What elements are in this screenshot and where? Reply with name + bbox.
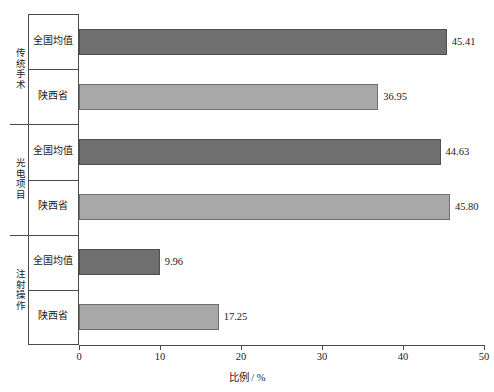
x-axis-title: 比例 / % (0, 369, 494, 384)
x-tick-label: 30 (317, 352, 328, 363)
x-tick (241, 345, 242, 350)
plot-area: 45.4136.9544.6345.809.9617.25 (79, 14, 484, 345)
x-tick-label: 40 (398, 352, 409, 363)
category-label: 陕西省 (28, 91, 77, 101)
bar-value-label: 44.63 (446, 139, 470, 165)
category-label: 陕西省 (28, 201, 77, 211)
group-label-text: 传统手术 (14, 48, 24, 90)
bar-value-label: 17.25 (224, 304, 248, 330)
group-label-text: 光电项目 (14, 158, 24, 200)
x-tick (484, 345, 485, 350)
bar (79, 29, 447, 55)
category-label: 全国均值 (28, 146, 77, 156)
x-tick-label: 20 (236, 352, 247, 363)
bar (79, 139, 441, 165)
category-label: 全国均值 (28, 36, 77, 46)
category-divider (28, 69, 79, 70)
x-axis-line (79, 345, 484, 346)
category-divider (28, 290, 79, 291)
x-tick (160, 345, 161, 350)
bar-value-label: 45.80 (455, 194, 479, 220)
group-divider (10, 124, 79, 125)
bar (79, 84, 378, 110)
group-label-text: 注射操作 (14, 269, 24, 311)
x-tick (79, 345, 80, 350)
group-label-1: 传统手术 (10, 14, 29, 124)
bar-value-label: 9.96 (165, 249, 183, 275)
bar (79, 304, 219, 330)
group-label-2: 光电项目 (10, 124, 29, 234)
category-label: 全国均值 (28, 256, 77, 266)
bar (79, 194, 450, 220)
bar-chart: 传统手术全国均值陕西省光电项目全国均值陕西省注射操作全国均值陕西省 45.413… (0, 0, 494, 392)
x-tick-label: 0 (76, 352, 81, 363)
x-tick (403, 345, 404, 350)
group-label-3: 注射操作 (10, 235, 29, 345)
bar-value-label: 36.95 (383, 84, 407, 110)
bar-value-label: 45.41 (452, 29, 476, 55)
x-tick (322, 345, 323, 350)
group-divider (10, 235, 79, 236)
x-tick-label: 50 (479, 352, 490, 363)
bar (79, 249, 160, 275)
category-label: 陕西省 (28, 311, 77, 321)
category-divider (28, 180, 79, 181)
x-tick-label: 10 (155, 352, 166, 363)
